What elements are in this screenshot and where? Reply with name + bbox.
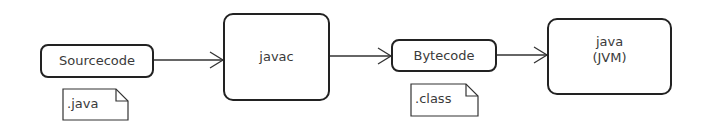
note-class: .class bbox=[411, 84, 478, 116]
node-bytecode-label: Bytecode bbox=[413, 48, 474, 64]
note-class-label: .class bbox=[415, 91, 451, 106]
arrow-sourcecode-to-javac bbox=[154, 52, 223, 68]
arrow-bytecode-to-jvm bbox=[497, 47, 547, 63]
node-bytecode[interactable]: Bytecode bbox=[391, 39, 497, 72]
node-jvm-label-line2: (JVM) bbox=[592, 50, 626, 66]
note-java: .java bbox=[63, 89, 128, 120]
node-sourcecode-label: Sourcecode bbox=[59, 53, 135, 69]
node-jvm-label-line1: java bbox=[596, 34, 623, 50]
note-java-label: .java bbox=[67, 96, 98, 111]
node-javac-label: javac bbox=[259, 49, 293, 65]
arrow-javac-to-bytecode bbox=[330, 48, 391, 64]
node-javac[interactable]: javac bbox=[223, 13, 330, 101]
node-jvm[interactable]: java (JVM) bbox=[547, 18, 672, 95]
node-sourcecode[interactable]: Sourcecode bbox=[40, 44, 154, 78]
